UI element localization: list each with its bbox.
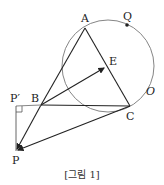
segment-bc [41,105,130,106]
right-angle-marker [16,106,22,112]
label-c: C [126,110,134,123]
segment-ab [41,28,85,105]
vector-cp [18,106,130,150]
label-b: B [31,92,39,105]
geometry-figure: A Q E O B C P′ P [그림 1] [0,0,164,185]
vector-be [41,68,104,105]
segment-pprime-b [16,105,41,106]
label-q: Q [123,10,132,23]
circle-o [62,20,154,112]
label-e: E [109,55,117,68]
point-q [125,23,129,27]
label-p: P [12,154,20,167]
label-a: A [80,12,90,25]
segment-ac [85,28,130,106]
label-o: O [146,85,155,98]
figure-caption: [그림 1] [64,169,99,180]
label-p-prime: P′ [10,92,20,105]
